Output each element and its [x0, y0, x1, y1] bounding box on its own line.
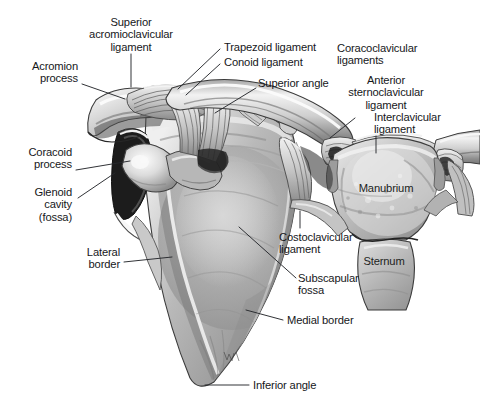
scapula-clavicle-sternum-illustration — [0, 0, 480, 407]
leader-glenoid-cavity-fossa — [78, 173, 115, 198]
sternum-body — [352, 234, 418, 310]
anatomical-figure: Superior acromioclavicular ligamentAcrom… — [0, 0, 480, 407]
